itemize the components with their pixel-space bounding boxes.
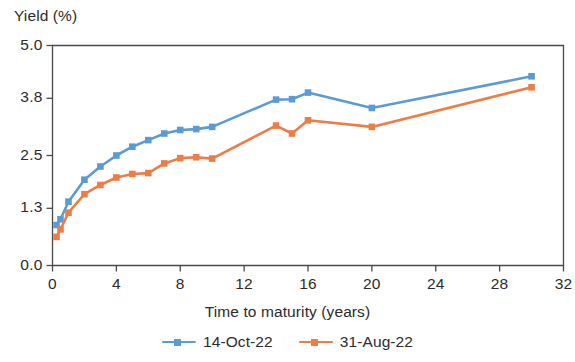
data-point-marker — [129, 143, 136, 150]
data-point-marker — [209, 155, 216, 162]
tick-marks — [47, 46, 564, 272]
x-tick-label: 4 — [96, 275, 136, 293]
y-tick-label: 0.0 — [0, 256, 43, 274]
yield-curve-chart: Yield (%) 0.01.32.53.85.0 04812162024283… — [0, 0, 575, 362]
axis-frame — [53, 46, 564, 266]
legend-label: 31-Aug-22 — [340, 333, 413, 351]
data-point-marker — [289, 96, 296, 103]
data-point-marker — [305, 89, 312, 96]
data-point-marker — [113, 174, 120, 181]
data-point-marker — [145, 137, 152, 144]
data-point-marker — [161, 160, 168, 167]
data-point-marker — [161, 130, 168, 137]
legend-entry-2[interactable]: 31-Aug-22 — [299, 333, 413, 351]
data-point-marker — [57, 226, 64, 233]
x-tick-label: 16 — [288, 275, 328, 293]
data-point-marker — [528, 84, 535, 91]
legend-swatch-icon — [162, 335, 196, 349]
data-point-marker — [53, 234, 60, 241]
data-point-marker — [145, 170, 152, 177]
data-point-marker — [369, 105, 376, 112]
data-point-marker — [209, 124, 216, 131]
y-tick-label: 1.3 — [0, 198, 43, 216]
data-point-marker — [81, 191, 88, 198]
data-point-marker — [97, 163, 104, 170]
data-point-marker — [177, 127, 184, 134]
data-point-marker — [528, 73, 535, 80]
x-tick-label: 20 — [352, 275, 392, 293]
legend-swatch-icon — [299, 335, 333, 349]
legend-entry-1[interactable]: 14-Oct-22 — [162, 333, 273, 351]
series-1 — [53, 73, 535, 228]
x-tick-label: 8 — [160, 275, 200, 293]
x-tick-label: 28 — [480, 275, 520, 293]
data-point-marker — [113, 152, 120, 159]
data-point-marker — [81, 176, 88, 183]
x-tick-label: 24 — [416, 275, 456, 293]
data-point-marker — [177, 155, 184, 162]
data-point-marker — [65, 209, 72, 216]
data-point-marker — [305, 117, 312, 124]
y-tick-label: 2.5 — [0, 146, 43, 164]
series-2 — [53, 84, 535, 240]
data-point-marker — [273, 96, 280, 103]
legend-label: 14-Oct-22 — [203, 333, 273, 351]
x-tick-label: 0 — [33, 275, 73, 293]
data-point-marker — [193, 126, 200, 133]
x-tick-label: 32 — [544, 275, 575, 293]
data-point-marker — [369, 124, 376, 131]
x-tick-label: 12 — [224, 275, 264, 293]
y-tick-label: 5.0 — [0, 36, 43, 54]
data-point-marker — [97, 182, 104, 189]
data-point-marker — [273, 122, 280, 129]
y-tick-label: 3.8 — [0, 88, 43, 106]
series-layer — [53, 73, 535, 240]
data-point-marker — [129, 171, 136, 178]
x-axis-title: Time to maturity (years) — [0, 303, 575, 321]
data-point-marker — [289, 130, 296, 137]
chart-legend: 14-Oct-2231-Aug-22 — [0, 333, 575, 351]
data-point-marker — [65, 198, 72, 205]
data-point-marker — [193, 154, 200, 161]
